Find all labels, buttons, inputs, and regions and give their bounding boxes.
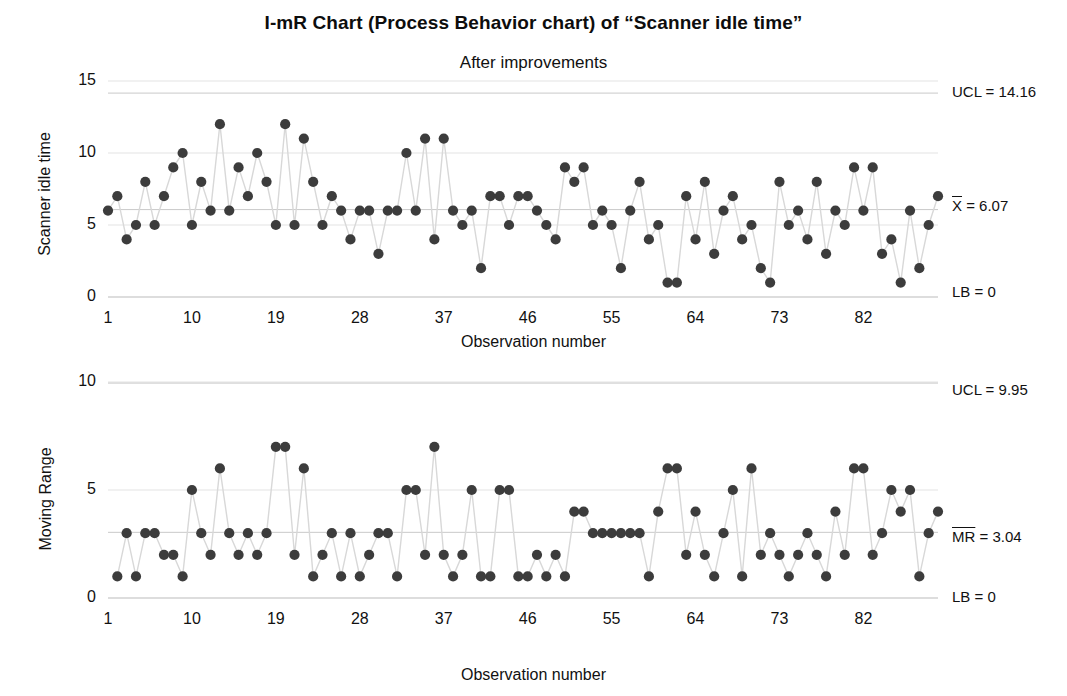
data-point — [420, 134, 430, 144]
data-point — [905, 206, 915, 216]
data-point — [205, 206, 215, 216]
data-point — [411, 485, 421, 495]
data-point — [700, 550, 710, 560]
data-point — [243, 528, 253, 538]
data-point — [877, 249, 887, 259]
x-tick-label: 82 — [840, 309, 886, 327]
data-point — [187, 485, 197, 495]
x-tick-label: 1 — [85, 309, 131, 327]
data-point — [485, 571, 495, 581]
data-point — [448, 206, 458, 216]
x-tick-label: 55 — [589, 610, 635, 628]
data-point — [765, 528, 775, 538]
data-point — [271, 442, 281, 452]
x-tick-label: 1 — [85, 610, 131, 628]
data-point — [289, 550, 299, 560]
data-point — [625, 206, 635, 216]
data-point — [681, 191, 691, 201]
data-point — [467, 206, 477, 216]
data-point — [196, 528, 206, 538]
data-point — [849, 463, 859, 473]
data-point — [327, 528, 337, 538]
data-point — [187, 220, 197, 230]
data-point — [616, 263, 626, 273]
x-tick-label: 55 — [589, 309, 635, 327]
data-point — [317, 550, 327, 560]
moving-range-plot-area — [0, 360, 1067, 696]
series-line — [108, 124, 938, 282]
data-point — [933, 507, 943, 517]
data-point — [345, 234, 355, 244]
data-point — [709, 249, 719, 259]
data-point — [896, 507, 906, 517]
x-tick-label: 37 — [421, 309, 467, 327]
data-point — [551, 550, 561, 560]
data-point — [728, 191, 738, 201]
data-point — [233, 550, 243, 560]
data-point — [625, 528, 635, 538]
data-point — [299, 134, 309, 144]
individuals-lower-bound-annotation: LB = 0 — [952, 283, 996, 300]
data-point — [168, 162, 178, 172]
individuals-chart-panel: Scanner idle time Observation number UCL… — [0, 0, 1067, 360]
data-point — [495, 485, 505, 495]
data-point — [373, 528, 383, 538]
data-point — [355, 571, 365, 581]
data-point — [271, 220, 281, 230]
moving-range-chart-panel: Moving Range Observation number UCL = 9.… — [0, 360, 1067, 696]
data-point — [476, 571, 486, 581]
data-point — [933, 191, 943, 201]
x-bar-value: = 6.07 — [962, 197, 1008, 214]
moving-range-lower-bound-annotation: LB = 0 — [952, 588, 996, 605]
data-point — [299, 463, 309, 473]
data-point — [737, 571, 747, 581]
data-point — [122, 528, 132, 538]
data-point — [793, 206, 803, 216]
data-point — [924, 528, 934, 538]
data-point — [420, 550, 430, 560]
data-point — [849, 162, 859, 172]
data-point — [178, 148, 188, 158]
data-point — [728, 485, 738, 495]
data-point — [672, 278, 682, 288]
data-point — [588, 528, 598, 538]
data-point — [579, 507, 589, 517]
data-point — [215, 463, 225, 473]
data-point — [178, 571, 188, 581]
data-point — [784, 220, 794, 230]
x-tick-label: 73 — [756, 610, 802, 628]
x-tick-label: 19 — [253, 309, 299, 327]
data-point — [345, 528, 355, 538]
data-point — [401, 148, 411, 158]
data-point — [830, 507, 840, 517]
x-tick-label: 82 — [840, 610, 886, 628]
data-point — [215, 119, 225, 129]
data-point — [774, 177, 784, 187]
data-point — [429, 442, 439, 452]
data-point — [252, 550, 262, 560]
data-point — [700, 177, 710, 187]
data-point — [653, 220, 663, 230]
x-tick-label: 10 — [169, 610, 215, 628]
individuals-y-axis-label: Scanner idle time — [36, 104, 54, 284]
data-point — [280, 442, 290, 452]
data-point — [840, 550, 850, 560]
moving-range-ucl-annotation: UCL = 9.95 — [952, 381, 1028, 398]
data-point — [672, 463, 682, 473]
x-tick-label: 64 — [673, 610, 719, 628]
data-point — [131, 571, 141, 581]
data-point — [793, 550, 803, 560]
data-point — [383, 528, 393, 538]
y-tick-label: 10 — [56, 372, 96, 390]
data-point — [774, 550, 784, 560]
data-point — [233, 162, 243, 172]
individuals-plot-area — [0, 0, 1067, 360]
data-point — [439, 550, 449, 560]
data-point — [457, 550, 467, 560]
data-point — [560, 162, 570, 172]
data-point — [112, 191, 122, 201]
data-point — [308, 571, 318, 581]
data-point — [243, 191, 253, 201]
data-point — [532, 206, 542, 216]
data-point — [150, 220, 160, 230]
